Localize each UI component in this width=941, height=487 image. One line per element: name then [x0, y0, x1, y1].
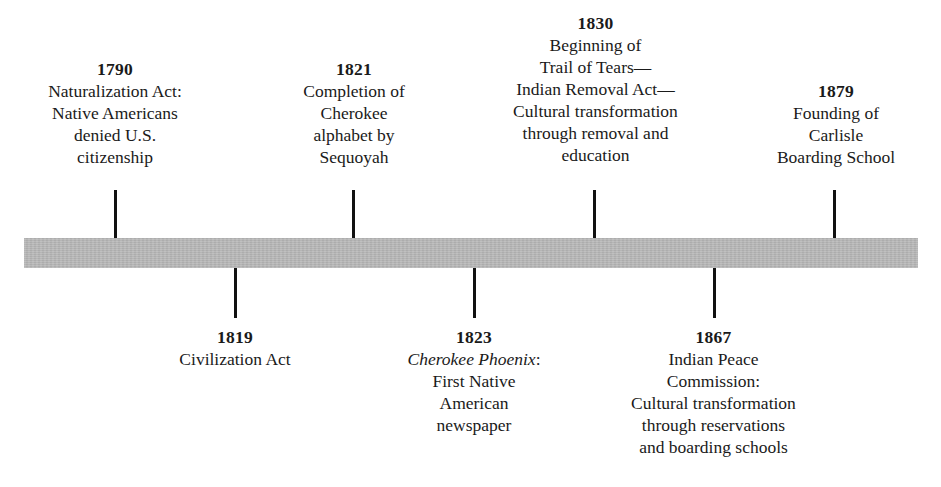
event-year: 1879	[741, 80, 931, 102]
timeline-tick-1790	[114, 190, 117, 240]
timeline-tick-1821	[352, 190, 355, 240]
timeline-tick-1819	[234, 268, 237, 318]
timeline-tick-1879	[833, 190, 836, 240]
event-description: Founding of Carlisle Boarding School	[741, 102, 931, 168]
event-description: Indian Peace Commission: Cultural transf…	[601, 348, 826, 458]
timeline-event-1823: 1823 Cherokee Phoenix: First Native Amer…	[386, 326, 562, 436]
event-year: 1830	[483, 12, 708, 34]
timeline-tick-1867	[713, 268, 716, 318]
event-description: Cherokee Phoenix: First Native American …	[386, 348, 562, 436]
timeline-figure: 1790 Naturalization Act: Native American…	[0, 0, 941, 487]
newspaper-title: Cherokee Phoenix	[408, 349, 536, 369]
event-description: Civilization Act	[140, 348, 330, 370]
timeline-event-1867: 1867 Indian Peace Commission: Cultural t…	[601, 326, 826, 458]
timeline-bar	[24, 238, 918, 268]
event-year: 1867	[601, 326, 826, 348]
event-year: 1821	[268, 58, 440, 80]
event-year: 1790	[5, 58, 225, 80]
event-description: Beginning of Trail of Tears— Indian Remo…	[483, 34, 708, 166]
event-description: Naturalization Act: Native Americans den…	[5, 80, 225, 168]
timeline-event-1830: 1830 Beginning of Trail of Tears— Indian…	[483, 12, 708, 166]
event-description: Completion of Cherokee alphabet by Sequo…	[268, 80, 440, 168]
timeline-event-1821: 1821 Completion of Cherokee alphabet by …	[268, 58, 440, 168]
timeline-event-1790: 1790 Naturalization Act: Native American…	[5, 58, 225, 168]
timeline-event-1879: 1879 Founding of Carlisle Boarding Schoo…	[741, 80, 931, 168]
timeline-tick-1830	[593, 190, 596, 240]
event-year: 1819	[140, 326, 330, 348]
timeline-event-1819: 1819 Civilization Act	[140, 326, 330, 370]
event-year: 1823	[386, 326, 562, 348]
timeline-tick-1823	[473, 268, 476, 318]
